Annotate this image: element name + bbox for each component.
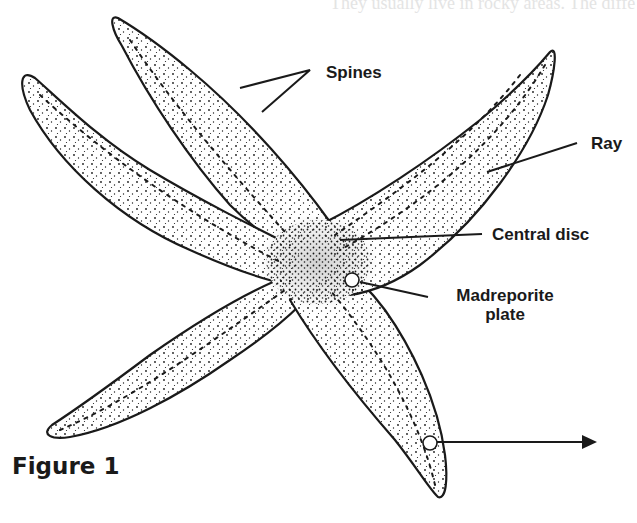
spines-leader: [240, 70, 310, 112]
label-ray: Ray: [591, 134, 622, 153]
figure-caption: Figure 1: [12, 453, 119, 479]
madreporite-plate: [345, 273, 359, 287]
label-madreporite: Madreporite plate: [440, 286, 570, 324]
arrow-head-icon: [582, 435, 597, 449]
label-madreporite-line1: Madreporite: [440, 286, 570, 305]
starfish-figure: They usually live in rocky areas. The di…: [0, 0, 637, 523]
label-madreporite-line2: plate: [440, 305, 570, 324]
arm-tip-marker: [423, 436, 437, 450]
label-spines: Spines: [326, 63, 382, 82]
label-central-disc: Central disc: [492, 225, 589, 244]
starfish-illustration: [0, 0, 637, 523]
